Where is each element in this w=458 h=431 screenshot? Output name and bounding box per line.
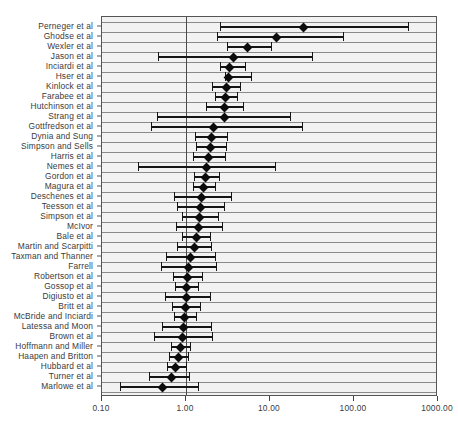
x-axis-tick [437, 396, 438, 401]
point-estimate-marker [180, 312, 190, 322]
ci-cap-upper [251, 72, 252, 81]
x-axis-tick [101, 396, 102, 401]
y-axis-tick-label: Bale et al [57, 231, 93, 241]
point-estimate-marker [191, 232, 201, 242]
point-estimate-marker [157, 382, 167, 392]
point-estimate-marker [174, 352, 184, 362]
y-axis-tick-label: Hoffmann and Miller [15, 341, 93, 351]
ci-cap-lower [194, 172, 195, 181]
ci-cap-upper [226, 142, 227, 151]
point-estimate-marker [177, 332, 187, 342]
ci-cap-lower [220, 62, 221, 71]
ci-cap-lower [182, 212, 183, 221]
y-axis-tick-label: Hutchinson et al [31, 101, 93, 111]
ci-cap-upper [224, 202, 225, 211]
ci-cap-upper [275, 162, 276, 171]
point-estimate-marker [243, 42, 253, 52]
point-estimate-marker [189, 242, 199, 252]
ci-cap-lower [195, 132, 196, 141]
point-estimate-marker [272, 32, 282, 42]
y-axis-tick-label: Magura et al [45, 181, 93, 191]
ci-cap-lower [171, 342, 172, 351]
y-axis-tick-label: Deschenes et al [31, 191, 93, 201]
point-estimate-marker [179, 322, 189, 332]
point-estimate-marker [167, 372, 177, 382]
point-estimate-marker [198, 182, 208, 192]
ci-cap-lower [166, 252, 167, 261]
confidence-interval-bar [151, 126, 302, 128]
ci-cap-upper [188, 352, 189, 361]
point-estimate-marker [175, 342, 185, 352]
confidence-interval-bar [220, 26, 408, 28]
ci-cap-upper [210, 292, 211, 301]
ci-cap-lower [175, 282, 176, 291]
y-axis-tick-label: Digiusto et al [42, 291, 93, 301]
y-axis-tick-label: Strang et al [48, 111, 93, 121]
ci-cap-upper [218, 212, 219, 221]
y-axis-tick-label: Harris et al [51, 151, 93, 161]
ci-cap-upper [198, 382, 199, 391]
ci-cap-lower [220, 22, 221, 31]
ci-cap-upper [202, 272, 203, 281]
point-estimate-marker [221, 82, 231, 92]
ci-cap-upper [215, 252, 216, 261]
y-axis-tick-label: Marlowe et al [41, 381, 93, 391]
point-estimate-marker [195, 212, 205, 222]
ci-cap-lower [157, 112, 158, 121]
ci-cap-lower [215, 92, 216, 101]
point-estimate-marker [203, 152, 213, 162]
ci-cap-lower [176, 222, 177, 231]
ci-cap-upper [216, 262, 217, 271]
plot-area [101, 16, 437, 396]
ci-cap-lower [217, 32, 218, 41]
y-axis-tick-label: Inciardi et al [46, 61, 93, 71]
y-axis-tick-label: Gossop et al [44, 281, 93, 291]
ci-cap-upper [219, 172, 220, 181]
ci-cap-upper [190, 342, 191, 351]
ci-cap-upper [211, 242, 212, 251]
ci-cap-lower [206, 102, 207, 111]
ci-cap-lower [177, 202, 178, 211]
y-axis-tick-label: Kinlock et al [46, 81, 93, 91]
y-axis-tick-label: Britt et al [58, 301, 93, 311]
y-axis-tick-label: Gordon et al [45, 171, 93, 181]
y-axis-tick-label: Brown et al [49, 331, 93, 341]
ci-cap-upper [198, 282, 199, 291]
ci-cap-lower [158, 52, 159, 61]
point-estimate-marker [220, 102, 230, 112]
point-estimate-marker [208, 122, 218, 132]
y-axis-tick-label: Simpson and Sells [21, 141, 93, 151]
x-axis-tick [269, 396, 270, 401]
ci-cap-lower [172, 302, 173, 311]
x-axis-tick-label: 1000.00 [421, 403, 453, 413]
point-estimate-marker [205, 142, 215, 152]
ci-cap-upper [231, 192, 232, 201]
ci-cap-upper [200, 302, 201, 311]
ci-cap-lower [154, 332, 155, 341]
ci-cap-lower [173, 272, 174, 281]
ci-cap-lower [193, 152, 194, 161]
ci-cap-upper [196, 312, 197, 321]
x-axis-tick [185, 396, 186, 401]
point-estimate-marker [196, 202, 206, 212]
x-axis-tick-label: 10.00 [258, 403, 280, 413]
x-axis-tick-label: 1.00 [176, 403, 193, 413]
y-axis-tick-label: Ghodse et al [44, 31, 93, 41]
point-estimate-marker [171, 362, 181, 372]
ci-cap-lower [120, 382, 121, 391]
ci-cap-upper [237, 92, 238, 101]
y-axis-tick-label: Latessa and Moon [22, 321, 93, 331]
ci-cap-upper [245, 62, 246, 71]
ci-cap-upper [225, 152, 226, 161]
ci-cap-lower [174, 312, 175, 321]
ci-cap-upper [210, 232, 211, 241]
point-estimate-marker [180, 302, 190, 312]
ci-cap-upper [290, 112, 291, 121]
ci-cap-lower [174, 192, 175, 201]
point-estimate-marker [221, 92, 231, 102]
point-estimate-marker [298, 22, 308, 32]
ci-cap-lower [149, 372, 150, 381]
ci-cap-lower [165, 292, 166, 301]
point-estimate-marker [225, 62, 235, 72]
point-estimate-marker [181, 282, 191, 292]
